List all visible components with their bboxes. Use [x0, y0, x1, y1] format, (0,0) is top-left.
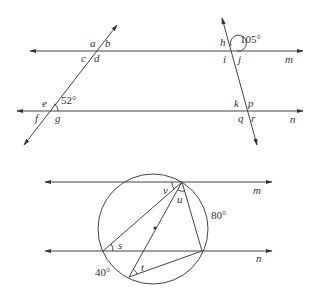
- figure-2: v u s t 80° 40° m n: [45, 174, 272, 284]
- angle-label-f: f: [35, 112, 40, 124]
- figure-1: a b c d e f g 52° h i j 105° k p q r m n: [17, 18, 303, 145]
- angle-t-arc: [133, 269, 137, 274]
- angle-label-q: q: [238, 112, 244, 124]
- angle-s-arc: [111, 244, 113, 251]
- line-m2-label: m: [253, 184, 261, 196]
- chord-top-to-right: [182, 182, 202, 251]
- angle-label-j: j: [236, 53, 241, 65]
- angle-label-c: c: [81, 52, 86, 64]
- geometry-diagram: a b c d e f g 52° h i j 105° k p q r m n: [0, 0, 315, 293]
- angle-label-k: k: [234, 97, 240, 109]
- angle-label-b: b: [105, 37, 111, 49]
- line-n2-label: n: [256, 252, 262, 264]
- diameter: [129, 182, 182, 277]
- angle-label-s: s: [118, 239, 122, 251]
- angle-label-v: v: [163, 184, 168, 196]
- line-m-label: m: [285, 53, 293, 65]
- arc-40-label: 40°: [95, 266, 110, 278]
- angle-label-i: i: [223, 53, 226, 65]
- left-transversal: [24, 25, 117, 145]
- line-n-label: n: [290, 113, 296, 125]
- angle-label-h: h: [220, 36, 226, 48]
- angle-label-e: e: [42, 97, 47, 109]
- angle-label-d: d: [94, 52, 100, 64]
- angle-label-p: p: [247, 97, 254, 109]
- angle-label-u: u: [177, 193, 183, 205]
- angle-52-label: 52°: [61, 94, 76, 106]
- angle-label-a: a: [90, 37, 96, 49]
- angle-label-r: r: [251, 112, 256, 124]
- angle-v-arc: [172, 182, 174, 189]
- arc-80-label: 80°: [211, 209, 226, 221]
- circle: [98, 174, 208, 284]
- chord-bottom: [129, 251, 202, 277]
- angle-label-g: g: [55, 112, 61, 124]
- chord-top-to-left: [103, 182, 182, 251]
- angle-105-label: 105°: [240, 33, 261, 45]
